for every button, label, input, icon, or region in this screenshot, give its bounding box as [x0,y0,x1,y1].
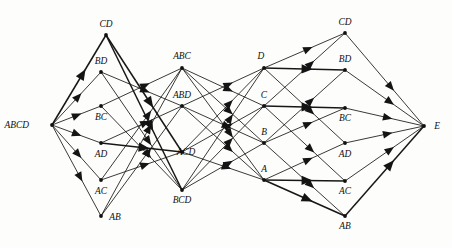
graph-node-ad[interactable] [99,141,103,145]
diagram-canvas: ABCDCDBDBCADACABABCABDACDBCDDCBACDBDBCAD… [0,0,452,248]
graph-edge [182,68,264,190]
edge-layer [52,33,424,216]
node-label-ac: AC [338,186,352,196]
graph-node-bc[interactable] [343,106,347,110]
graph-node-c[interactable] [262,104,266,108]
graph-node-abc[interactable] [180,66,184,70]
edge-arrowhead [74,171,82,181]
node-label-bd: BD [339,54,352,64]
node-label-ad: AD [338,149,352,159]
graph-node-abcd[interactable] [50,123,54,127]
node-label-cd: CD [99,19,112,29]
graph-node-bcd[interactable] [180,188,184,192]
graph-node-bc[interactable] [99,104,103,108]
graph-edge [345,126,424,216]
node-label-abd: ABD [172,90,191,100]
edge-arrowhead [302,47,312,54]
edge-arrowhead [382,131,392,139]
graph-node-bd[interactable] [99,70,103,74]
node-label-ac: AC [94,186,108,196]
lattice-graph: ABCDCDBDBCADACABABCABDACDBCDDCBACDBDBCAD… [0,0,452,248]
node-label-ad: AD [94,149,108,159]
graph-node-cd[interactable] [343,31,347,35]
graph-edge [182,68,264,143]
graph-node-ac[interactable] [99,178,103,182]
node-label-a: A [260,164,267,174]
graph-node-bd[interactable] [343,68,347,72]
node-label-bc: BC [339,113,352,123]
node-label-bc: BC [95,112,108,122]
graph-node-ab[interactable] [99,214,103,218]
node-label-ab: AB [108,212,121,222]
node-label-bcd: BCD [173,195,192,205]
graph-node-cd[interactable] [104,33,108,37]
graph-edge [264,106,345,181]
graph-node-ac[interactable] [343,179,347,183]
node-label-acd: ACD [176,147,196,157]
edge-arrowhead [384,96,394,105]
edge-arrowhead [143,96,153,108]
edge-arrowhead [71,113,81,120]
graph-edge [52,125,101,216]
graph-node-abd[interactable] [180,104,184,108]
edge-arrowhead [143,135,152,145]
node-label-d: D [257,51,265,61]
graph-node-ab[interactable] [343,214,347,218]
edge-arrowhead [385,81,394,91]
edge-arrowhead [382,113,392,121]
graph-edge [345,33,424,126]
node-label-abcd: ABCD [4,120,30,130]
edge-arrowhead [384,147,394,156]
edge-arrowhead [76,69,86,81]
edge-arrowhead [302,122,312,129]
node-label-e: E [433,121,440,131]
node-label-ab: AB [338,221,351,231]
graph-node-ad[interactable] [343,141,347,145]
graph-node-a[interactable] [262,178,266,182]
node-label-c: C [261,90,268,100]
graph-edge [182,68,264,152]
node-label-abc: ABC [172,51,191,61]
graph-node-e[interactable] [422,124,426,128]
edge-arrowhead [302,158,312,165]
edge-arrowhead [139,163,149,170]
edge-arrowhead [71,129,81,136]
node-label-cd: CD [338,17,351,27]
graph-node-b[interactable] [262,141,266,145]
graph-node-d[interactable] [262,66,266,70]
node-label-bd: BD [95,56,108,66]
node-label-b: B [261,127,267,137]
